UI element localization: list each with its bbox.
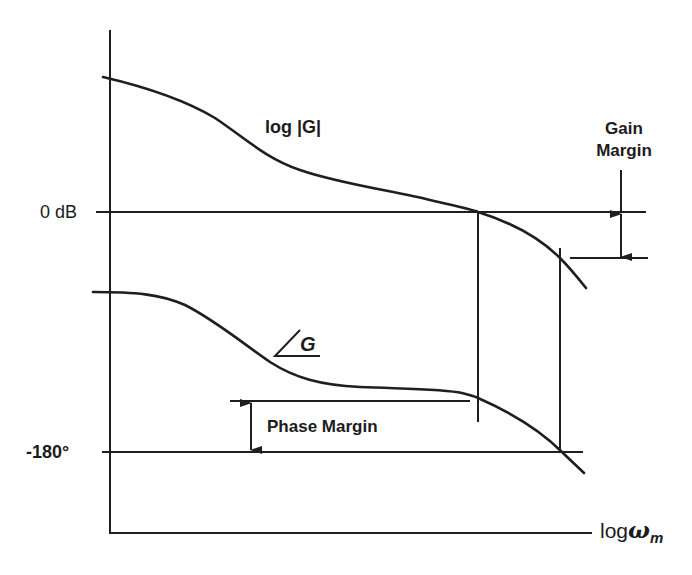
x-axis-label-subscript: m [650, 529, 663, 546]
bode-plot [0, 0, 692, 575]
phase-label: G [300, 334, 316, 354]
x-axis-label: logωm [600, 518, 663, 545]
gain-margin-label-line1: Gain [592, 120, 656, 137]
minus-180-label: -180° [26, 443, 69, 461]
phase-curve [93, 292, 584, 473]
x-axis-label-prefix: log [600, 519, 628, 542]
magnitude-label: log |G| [265, 118, 321, 136]
magnitude-curve [103, 77, 586, 288]
phase-margin-label: Phase Margin [267, 418, 378, 435]
gain-margin-label: Gain Margin [592, 120, 656, 159]
gain-margin-label-line2: Margin [592, 142, 656, 159]
omega-symbol: ω [628, 516, 650, 543]
zero-db-label: 0 dB [40, 203, 77, 221]
